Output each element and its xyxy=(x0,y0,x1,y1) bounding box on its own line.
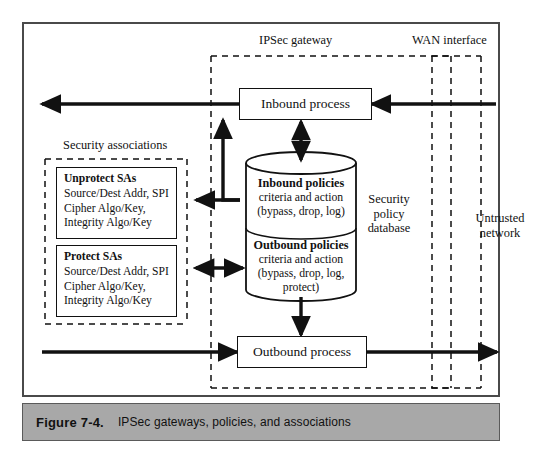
figure-caption-bar: Figure 7-4. IPSec gateways, policies, an… xyxy=(22,403,500,441)
protect-sa-line-1: Source/Dest Addr, SPI xyxy=(64,265,170,280)
label-untrusted-network: Untrusted network xyxy=(465,211,535,240)
outbound-process-box[interactable]: Outbound process xyxy=(237,336,367,368)
outbound-policies-line-1: criteria and action xyxy=(239,253,363,267)
inbound-policies-line-1: criteria and action xyxy=(239,191,363,205)
label-security-associations: Security associations xyxy=(63,138,167,153)
figure-number: Figure 7-4. xyxy=(36,415,104,430)
outbound-policies-title: Outbound policies xyxy=(253,238,348,252)
protect-sa-title: Protect SAs xyxy=(64,250,170,265)
protect-sa-box[interactable]: Protect SAs Source/Dest Addr, SPI Cipher… xyxy=(56,245,177,317)
unprotect-sa-line-2: Cipher Algo/Key, xyxy=(64,202,170,217)
untrusted-network-line-1: Untrusted xyxy=(465,211,535,226)
figure-title: IPSec gateways, policies, and associatio… xyxy=(118,415,351,429)
unprotect-sa-line-3: Integrity Algo/Key xyxy=(64,216,170,231)
protect-sa-line-3: Integrity Algo/Key xyxy=(64,294,170,309)
spd-line-2: policy xyxy=(358,207,420,222)
label-wan-interface: WAN interface xyxy=(412,33,487,48)
arrow-unprotect-sa-to-inbound xyxy=(196,120,240,200)
outbound-policies-text[interactable]: Outbound policies criteria and action (b… xyxy=(239,238,363,295)
inbound-policies-title: Inbound policies xyxy=(258,176,344,190)
spd-line-1: Security xyxy=(358,192,420,207)
label-ipsec-gateway: IPSec gateway xyxy=(259,33,332,48)
unprotect-sa-line-1: Source/Dest Addr, SPI xyxy=(64,187,170,202)
inbound-policies-line-2: (bypass, drop, log) xyxy=(239,205,363,219)
unprotect-sa-box[interactable]: Unprotect SAs Source/Dest Addr, SPI Ciph… xyxy=(56,167,177,239)
spd-line-3: database xyxy=(358,221,420,236)
label-security-policy-database: Security policy database xyxy=(358,192,420,236)
outbound-policies-line-3: protect) xyxy=(239,281,363,295)
outbound-policies-line-2: (bypass, drop, log, xyxy=(239,267,363,281)
unprotect-sa-title: Unprotect SAs xyxy=(64,172,170,187)
inbound-policies-text[interactable]: Inbound policies criteria and action (by… xyxy=(239,176,363,219)
untrusted-network-line-2: network xyxy=(465,226,535,241)
figure-root: IPSec gateway WAN interface Security ass… xyxy=(0,0,554,469)
protect-sa-line-2: Cipher Algo/Key, xyxy=(64,280,170,295)
inbound-process-box[interactable]: Inbound process xyxy=(239,88,372,120)
